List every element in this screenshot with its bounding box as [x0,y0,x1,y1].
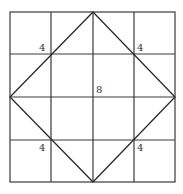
grid-lines [10,12,175,182]
label-center: 8 [96,84,102,95]
label-top-right: 4 [137,42,143,53]
grid-diagram: 4 4 8 4 4 [0,0,183,194]
label-top-left: 4 [39,42,45,53]
label-bottom-right: 4 [137,142,143,153]
label-bottom-left: 4 [39,142,45,153]
